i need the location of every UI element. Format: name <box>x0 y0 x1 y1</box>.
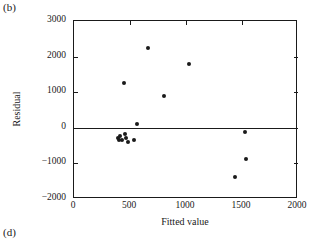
y-axis-tick-label: 1000 <box>0 86 66 96</box>
y-axis-tick-right <box>294 128 298 129</box>
x-axis-tick-label: 1000 <box>176 201 195 211</box>
y-axis-tick-right <box>294 57 298 58</box>
y-axis-tick <box>74 57 78 58</box>
x-axis-tick-label: 0 <box>71 201 76 211</box>
y-axis-tick-label: −2000 <box>0 193 66 203</box>
data-point <box>187 62 191 66</box>
x-axis-tick <box>242 21 243 25</box>
x-axis-tick-label: 500 <box>122 201 136 211</box>
y-axis-tick-label: 0 <box>0 122 66 132</box>
panel-label-d: (d) <box>3 227 16 238</box>
residual-plot-figure: (b) Residual Fitted value (d) 0500100015… <box>0 0 319 242</box>
y-axis-tick-right <box>294 163 298 164</box>
plot-frame <box>73 20 297 198</box>
y-axis-tick-label: 3000 <box>0 15 66 25</box>
y-axis-tick-right <box>294 92 298 93</box>
plot-area <box>74 21 296 197</box>
x-axis-tick-label: 2000 <box>288 201 307 211</box>
y-axis-tick <box>74 163 78 164</box>
x-axis-label: Fitted value <box>161 216 209 227</box>
data-point <box>135 122 139 126</box>
data-point <box>122 81 126 85</box>
data-point <box>233 175 237 179</box>
x-axis-tick-label: 1500 <box>232 201 251 211</box>
panel-label-b: (b) <box>3 2 16 13</box>
data-point <box>126 140 130 144</box>
x-axis-tick <box>186 21 187 25</box>
data-point <box>132 138 136 142</box>
data-point <box>243 130 247 134</box>
data-point <box>162 94 166 98</box>
y-axis-tick <box>74 92 78 93</box>
zero-reference-line <box>74 128 296 129</box>
y-axis-tick <box>74 128 78 129</box>
data-point <box>244 157 248 161</box>
data-point <box>146 46 150 50</box>
y-axis-tick-label: −1000 <box>0 158 66 168</box>
x-axis-tick <box>130 21 131 25</box>
y-axis-tick-label: 2000 <box>0 51 66 61</box>
